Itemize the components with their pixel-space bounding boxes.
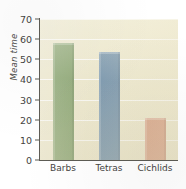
y-axis-tick-labels: 010203040506070: [8, 19, 32, 160]
bar: [145, 118, 166, 160]
y-axis-tick-label: 50: [8, 54, 32, 65]
gridline: [40, 39, 178, 40]
x-axis-category-label: Tetras: [96, 163, 123, 173]
y-axis-tick-label: 40: [8, 74, 32, 85]
bar-highlight: [99, 52, 101, 160]
bar: [99, 52, 120, 160]
y-axis-tick-label: 70: [8, 14, 32, 25]
x-axis-category-label: Barbs: [50, 163, 76, 173]
bar-shadow: [164, 118, 166, 160]
bar-shadow: [72, 43, 74, 160]
bar-highlight: [53, 43, 55, 160]
bar-highlight: [99, 52, 120, 54]
x-axis-line: [39, 160, 178, 161]
bar-highlight: [145, 118, 147, 160]
plot-area: [40, 19, 178, 160]
bar-highlight: [145, 118, 166, 120]
bar-shadow: [118, 52, 120, 160]
gridline: [40, 19, 178, 20]
x-axis-category-label: Cichlids: [138, 163, 173, 173]
y-axis-tick-label: 0: [8, 155, 32, 166]
bar-chart-figure: Mean time 010203040506070 BarbsTetrasCic…: [0, 0, 186, 189]
y-axis-tick-label: 10: [8, 134, 32, 145]
y-axis-tick-label: 60: [8, 34, 32, 45]
x-axis-category-labels: BarbsTetrasCichlids: [40, 163, 178, 179]
y-axis-tick-label: 30: [8, 94, 32, 105]
bar-highlight: [53, 43, 74, 45]
bar: [53, 43, 74, 160]
y-axis-tick-label: 20: [8, 114, 32, 125]
